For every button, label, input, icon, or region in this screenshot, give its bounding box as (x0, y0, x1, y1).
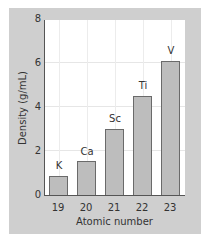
bar-label-v: V (156, 45, 186, 56)
bar-k (49, 176, 68, 195)
y-tick-0: 0 (29, 189, 41, 200)
x-axis-label: Atomic number (44, 216, 185, 227)
y-axis-label: Density (g/mL) (17, 71, 28, 145)
x-tick-19: 19 (46, 202, 70, 213)
bar-label-k: K (44, 160, 74, 171)
bar-v (161, 61, 180, 195)
bar-ti (133, 96, 152, 195)
x-tick-20: 20 (74, 202, 98, 213)
y-tick-8: 8 (29, 13, 41, 24)
y-tick-6: 6 (29, 57, 41, 68)
x-tick-22: 22 (130, 202, 154, 213)
bar-label-ti: Ti (128, 80, 158, 91)
bar-sc (105, 129, 124, 195)
y-tick-2: 2 (29, 145, 41, 156)
bar-label-sc: Sc (100, 113, 130, 124)
bar-label-ca: Ca (72, 146, 102, 157)
y-tick-4: 4 (29, 101, 41, 112)
plot-area: K Ca Sc Ti V (44, 20, 185, 196)
x-tick-21: 21 (102, 202, 126, 213)
x-tick-23: 23 (158, 202, 182, 213)
bar-ca (77, 161, 96, 195)
